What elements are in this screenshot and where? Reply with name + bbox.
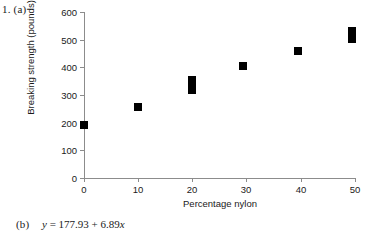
x-axis-title: Percentage nylon bbox=[84, 198, 356, 209]
data-point bbox=[294, 47, 302, 55]
y-axis-line bbox=[84, 12, 85, 179]
y-tick-500 bbox=[80, 40, 84, 41]
y-tick-400 bbox=[80, 67, 84, 68]
equation-plus: + bbox=[92, 218, 98, 230]
equation-y-variable: y bbox=[42, 218, 47, 230]
scatter-chart: 0 100 200 300 400 500 600 0 10 20 30 40 … bbox=[0, 0, 371, 215]
x-tick-label-30: 30 bbox=[233, 184, 259, 195]
y-tick-label-400: 400 bbox=[47, 62, 77, 73]
part-b-label: (b) bbox=[16, 218, 29, 230]
y-tick-label-200: 200 bbox=[47, 118, 77, 129]
data-point bbox=[80, 121, 88, 129]
x-tick-label-20: 20 bbox=[179, 184, 205, 195]
regression-equation: y = 177.93 + 6.89x bbox=[42, 218, 125, 230]
data-point bbox=[188, 76, 196, 94]
x-tick-40 bbox=[301, 178, 302, 182]
x-tick-0 bbox=[84, 178, 85, 182]
equation-intercept: 177.93 bbox=[59, 218, 89, 230]
x-tick-50 bbox=[355, 178, 356, 182]
x-tick-label-0: 0 bbox=[71, 184, 97, 195]
y-tick-600 bbox=[80, 12, 84, 13]
x-tick-10 bbox=[138, 178, 139, 182]
x-tick-label-10: 10 bbox=[125, 184, 151, 195]
y-tick-label-500: 500 bbox=[47, 35, 77, 46]
y-tick-label-600: 600 bbox=[47, 7, 77, 18]
x-tick-20 bbox=[192, 178, 193, 182]
equation-slope: 6.89 bbox=[101, 218, 120, 230]
data-point bbox=[239, 62, 247, 70]
x-tick-label-50: 50 bbox=[342, 184, 368, 195]
x-axis-line bbox=[84, 178, 356, 179]
y-tick-label-100: 100 bbox=[47, 145, 77, 156]
data-point bbox=[348, 27, 356, 43]
y-tick-label-300: 300 bbox=[47, 90, 77, 101]
equation-x-variable: x bbox=[120, 218, 125, 230]
y-tick-label-0: 0 bbox=[47, 173, 77, 184]
data-point bbox=[134, 103, 142, 111]
y-axis-title: Breaking strength (pounds) bbox=[25, 0, 36, 133]
equation-equals: = bbox=[50, 218, 56, 230]
y-tick-100 bbox=[80, 150, 84, 151]
x-tick-label-40: 40 bbox=[288, 184, 314, 195]
y-tick-300 bbox=[80, 95, 84, 96]
x-tick-30 bbox=[246, 178, 247, 182]
